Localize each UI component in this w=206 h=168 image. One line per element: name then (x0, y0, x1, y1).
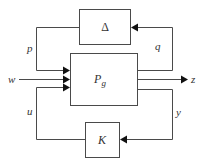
arrow-head-icon (63, 67, 70, 75)
controller-label: K (97, 133, 107, 147)
signal-y-label: y (175, 106, 181, 118)
signal-u-label: u (27, 105, 33, 117)
signal-w: w (8, 73, 70, 85)
delta-block: Δ (80, 10, 131, 45)
block-diagram: Δ Pg K p w u q z y (0, 0, 206, 168)
arrow-head-icon (63, 84, 70, 92)
arrow-head-icon (181, 76, 188, 84)
signal-w-label: w (8, 73, 16, 85)
arrow-head-icon (131, 24, 138, 32)
delta-label: Δ (101, 20, 109, 34)
controller-block: K (86, 123, 120, 158)
arrow-head-icon (120, 136, 127, 144)
plant-block: Pg (71, 54, 138, 106)
signal-z-label: z (190, 73, 196, 85)
arrow-head-icon (63, 76, 70, 84)
signal-z: z (138, 73, 196, 85)
signal-p-label: p (26, 42, 33, 54)
signal-q-label: q (155, 40, 161, 52)
